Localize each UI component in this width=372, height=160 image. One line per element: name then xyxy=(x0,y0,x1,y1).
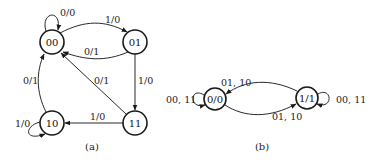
state-label-10: 10 xyxy=(46,118,59,129)
edge-label-01-00: 0/1 xyxy=(84,46,99,57)
edge-label-0-0-self: 00, 11 xyxy=(166,94,196,105)
state-label-1-1: 1/1 xyxy=(299,93,315,104)
edge-label-00-00: 0/0 xyxy=(60,7,75,18)
state-label-11: 11 xyxy=(129,118,142,129)
edge-label-11-00: 0/1 xyxy=(94,75,109,86)
caption-b: (b) xyxy=(255,141,269,152)
state-10: 10 xyxy=(40,111,64,135)
caption-a: (a) xyxy=(85,141,99,152)
edge-label-11-10: 1/0 xyxy=(90,111,105,122)
edge-10-00 xyxy=(38,54,46,112)
state-label-00: 00 xyxy=(46,37,59,48)
diagram-b: 00, 11 01, 10 01, 10 00, 11 0/0 1/1 (b) xyxy=(166,77,366,152)
edge-label-01-11: 1/0 xyxy=(138,75,153,86)
edge-00-00 xyxy=(45,15,59,31)
state-0-0: 0/0 xyxy=(204,88,226,110)
edge-label-0-0-to-1-1: 01, 10 xyxy=(272,111,302,122)
state-00: 00 xyxy=(40,30,64,54)
diagram-a: 0/0 1/0 0/1 1/0 0/1 1/0 0/1 1/0 00 01 xyxy=(15,7,153,152)
edge-label-1-1-to-0-0: 01, 10 xyxy=(221,77,251,88)
state-label-01: 01 xyxy=(129,37,142,48)
edge-1-1-self xyxy=(317,92,329,105)
state-01: 01 xyxy=(123,30,147,54)
edge-label-1-1-self: 00, 11 xyxy=(336,94,366,105)
edge-label-10-10: 1/0 xyxy=(15,118,30,129)
state-diagrams: 0/0 1/0 0/1 1/0 0/1 1/0 0/1 1/0 00 01 xyxy=(0,0,372,160)
edge-label-10-00: 0/1 xyxy=(23,75,38,86)
state-1-1: 1/1 xyxy=(296,87,318,109)
edge-label-00-01: 1/0 xyxy=(105,14,120,25)
state-11: 11 xyxy=(123,111,147,135)
state-label-0-0: 0/0 xyxy=(207,94,223,105)
